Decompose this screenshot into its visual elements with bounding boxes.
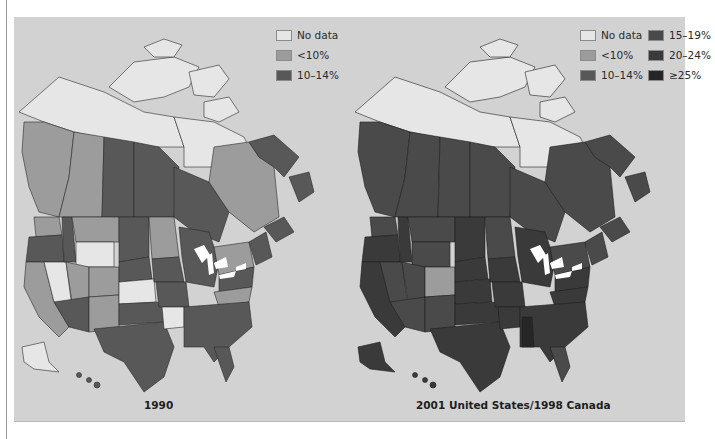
mississippi xyxy=(522,317,534,347)
washington xyxy=(370,217,398,237)
montana xyxy=(72,217,119,242)
hawaii xyxy=(413,373,418,378)
wyoming xyxy=(412,242,450,267)
newfoundland xyxy=(625,172,650,202)
swatch-lt10 xyxy=(580,50,596,61)
iowa xyxy=(488,257,520,282)
florida xyxy=(550,347,570,382)
missouri xyxy=(156,282,189,307)
colorado xyxy=(425,267,455,297)
legend-item-ge25: ≥25% xyxy=(648,65,715,85)
wyoming xyxy=(76,242,114,267)
new-mexico xyxy=(425,295,455,332)
texas xyxy=(94,322,174,392)
legend-item-10-14: 10–14% xyxy=(580,65,648,85)
texas xyxy=(430,322,510,392)
minnesota xyxy=(149,217,179,259)
oregon xyxy=(26,235,64,262)
minnesota xyxy=(485,217,515,259)
legend-item-lt10: <10% xyxy=(580,45,648,65)
manitoba xyxy=(134,142,179,217)
swatch-10-14 xyxy=(276,70,292,81)
oklahoma xyxy=(455,302,500,325)
legend-item-lt10: <10% xyxy=(276,45,339,65)
legend-item-15-19: 15–19% xyxy=(648,25,715,45)
legend-item-10-14: 10–14% xyxy=(276,65,339,85)
swatch-no-data xyxy=(276,30,292,41)
saskatchewan xyxy=(438,137,470,217)
kansas xyxy=(455,279,492,304)
kansas xyxy=(119,279,156,304)
caption-2001: 2001 United States/1998 Canada xyxy=(416,399,611,411)
legend-2001: No data 15–19% <10% 20–24% 10–14% ≥25% xyxy=(580,25,715,85)
caption-1990: 1990 xyxy=(144,399,173,411)
colorado xyxy=(89,267,119,297)
dakotas xyxy=(455,217,485,262)
newfoundland xyxy=(289,172,314,202)
map-2001: No data 15–19% <10% 20–24% 10–14% ≥25% xyxy=(350,17,685,421)
swatch-10-14 xyxy=(580,70,596,81)
figure-panel: No data <10% 10–14% 1990 xyxy=(14,17,685,422)
arkansas xyxy=(162,307,184,329)
oregon xyxy=(362,235,400,262)
hawaii xyxy=(77,373,82,378)
new-mexico xyxy=(89,295,119,332)
alaska xyxy=(22,342,59,372)
florida xyxy=(214,347,234,382)
map-1990: No data <10% 10–14% 1990 xyxy=(14,17,349,421)
washington xyxy=(34,217,62,237)
legend-item-no-data: No data xyxy=(580,25,648,45)
swatch-lt10 xyxy=(276,50,292,61)
alaska xyxy=(358,342,395,372)
arctic-islands xyxy=(445,57,535,102)
swatch-ge25 xyxy=(648,70,664,81)
dakotas xyxy=(119,217,149,262)
swatch-20-24 xyxy=(648,50,664,61)
missouri xyxy=(492,282,525,307)
swatch-no-data xyxy=(580,30,596,41)
saskatchewan xyxy=(102,137,134,217)
oklahoma xyxy=(119,302,164,325)
legend-1990: No data <10% 10–14% xyxy=(276,25,339,85)
montana xyxy=(408,217,455,242)
legend-item-20-24: 20–24% xyxy=(648,45,715,65)
frame-border xyxy=(6,0,7,439)
swatch-15-19 xyxy=(648,30,664,41)
legend-item-no-data: No data xyxy=(276,25,339,45)
arkansas xyxy=(498,307,520,329)
arctic-islands xyxy=(109,57,199,102)
iowa xyxy=(152,257,184,282)
manitoba xyxy=(470,142,515,217)
